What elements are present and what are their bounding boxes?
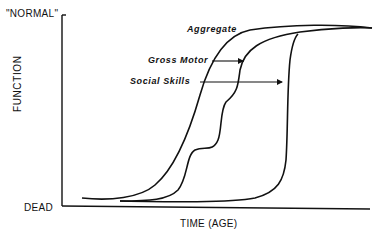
gross-motor-arrowhead — [238, 58, 244, 64]
chart-canvas — [0, 0, 378, 237]
social-skills-arrowhead — [277, 79, 283, 85]
social-skills-label: Social Skills — [130, 76, 190, 86]
y-axis-label: FUNCTION — [12, 56, 23, 112]
x-axis-label: TIME (AGE) — [180, 218, 237, 229]
y-tick-normal: "NORMAL" — [6, 8, 58, 19]
x-axis — [62, 206, 370, 209]
gross-motor-label: Gross Motor — [148, 55, 208, 65]
aggregate-curve — [82, 25, 372, 199]
social-skills-curve — [120, 34, 298, 202]
y-tick-dead: DEAD — [24, 202, 53, 213]
aggregate-label: Aggregate — [187, 24, 237, 34]
gross-motor-curve — [120, 28, 372, 201]
